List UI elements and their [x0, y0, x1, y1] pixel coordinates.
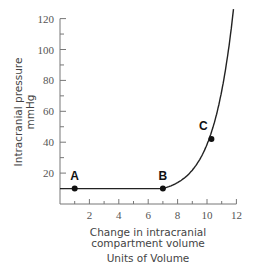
x-tick-label: 10: [202, 209, 214, 221]
y-tick-label: 120: [38, 13, 55, 25]
point-a: [72, 186, 78, 192]
pressure-volume-curve: [60, 9, 234, 188]
point-label: A: [70, 169, 79, 183]
y-tick-label: 80: [43, 74, 55, 86]
axes: 2040608010012024681012: [38, 13, 242, 221]
x-tick-label: 4: [116, 209, 122, 221]
y-axis-unit: mmHg: [24, 94, 36, 129]
point-c: [208, 136, 214, 142]
y-axis-label: Intracranial pressure: [12, 58, 24, 167]
point-label: B: [159, 169, 168, 183]
y-tick-label: 60: [43, 105, 55, 117]
x-tick-label: 6: [145, 209, 151, 221]
annotations: ABC: [70, 119, 214, 191]
y-tick-label: 40: [43, 136, 55, 148]
x-tick-label: 12: [231, 209, 242, 221]
point-b: [160, 186, 166, 192]
chart: 2040608010012024681012 ABC Intracranial …: [0, 0, 259, 270]
x-tick-label: 2: [87, 209, 93, 221]
units-label: Units of Volume: [107, 252, 190, 264]
x-tick-label: 8: [175, 209, 181, 221]
y-tick-label: 20: [43, 167, 55, 179]
y-tick-label: 100: [38, 44, 55, 56]
point-label: C: [199, 119, 208, 133]
x-axis-label-line2: compartment volume: [91, 237, 205, 249]
